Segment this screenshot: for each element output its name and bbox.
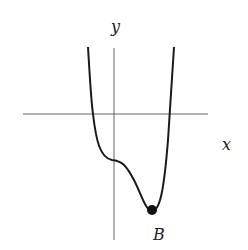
point-b-marker [147, 205, 157, 215]
curve [88, 47, 174, 211]
point-b-label: B [152, 225, 165, 244]
function-graph: y x B [0, 0, 248, 250]
y-axis-label: y [110, 17, 121, 36]
x-axis-label: x [222, 135, 231, 154]
graph-svg: y x B [0, 0, 248, 250]
